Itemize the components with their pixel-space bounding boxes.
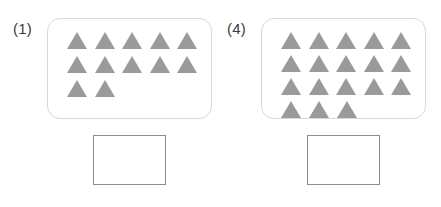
triangle-icon xyxy=(95,32,115,49)
shape-panel-1 xyxy=(47,18,212,119)
triangle-icon xyxy=(309,78,329,95)
triangle-icon xyxy=(67,56,87,73)
triangle-cell xyxy=(309,77,337,101)
triangle-icon xyxy=(122,56,142,73)
triangle-icon xyxy=(337,101,357,118)
triangle-icon xyxy=(122,32,142,49)
triangle-icon xyxy=(364,78,384,95)
item-number-label: (1) xyxy=(13,20,32,38)
triangle-icon xyxy=(336,78,356,95)
triangle-cell xyxy=(177,55,205,79)
answer-box[interactable] xyxy=(307,135,380,185)
triangle-cell xyxy=(309,31,337,55)
triangle-icon xyxy=(95,80,115,97)
triangle-row xyxy=(281,100,419,123)
triangle-icon xyxy=(95,56,115,73)
triangle-cell xyxy=(122,55,150,79)
triangle-cell xyxy=(336,54,364,78)
triangle-row xyxy=(67,55,205,79)
triangle-icon xyxy=(309,101,329,118)
item-number-label: (4) xyxy=(227,20,246,38)
triangle-icon xyxy=(336,32,356,49)
triangle-cell xyxy=(150,55,178,79)
triangle-icon xyxy=(177,56,197,73)
triangle-icon xyxy=(281,32,301,49)
triangle-cell xyxy=(95,55,123,79)
triangle-cell xyxy=(364,31,392,55)
shape-panel-4 xyxy=(261,18,426,119)
triangle-icon xyxy=(177,32,197,49)
triangle-row xyxy=(67,79,205,103)
triangle-cell xyxy=(309,100,337,124)
triangle-grid-1 xyxy=(67,31,205,112)
triangle-cell xyxy=(337,100,365,124)
triangle-cell xyxy=(67,55,95,79)
triangle-icon xyxy=(67,80,87,97)
triangle-cell xyxy=(150,31,178,55)
triangle-cell xyxy=(336,77,364,101)
triangle-icon xyxy=(67,32,87,49)
triangle-cell xyxy=(95,79,123,103)
triangle-cell xyxy=(281,100,309,124)
answer-box[interactable] xyxy=(93,135,166,185)
triangle-cell xyxy=(364,77,392,101)
triangle-row xyxy=(281,31,419,54)
triangle-icon xyxy=(281,55,301,72)
triangle-icon xyxy=(391,32,411,49)
exercise-item-4: (4) xyxy=(214,0,434,207)
triangle-icon xyxy=(391,55,411,72)
triangle-cell xyxy=(391,77,419,101)
triangle-cell xyxy=(281,77,309,101)
triangle-row xyxy=(281,54,419,77)
triangle-row xyxy=(67,31,205,55)
triangle-icon xyxy=(150,56,170,73)
triangle-icon xyxy=(336,55,356,72)
triangle-cell xyxy=(281,31,309,55)
triangle-icon xyxy=(150,32,170,49)
triangle-icon xyxy=(364,55,384,72)
triangle-cell xyxy=(67,79,95,103)
triangle-row xyxy=(281,77,419,100)
triangle-icon xyxy=(309,55,329,72)
triangle-cell xyxy=(364,54,392,78)
triangle-cell xyxy=(122,31,150,55)
triangle-cell xyxy=(309,54,337,78)
triangle-icon xyxy=(364,32,384,49)
triangle-cell xyxy=(67,31,95,55)
triangle-cell xyxy=(177,31,205,55)
triangle-icon xyxy=(281,101,301,118)
triangle-icon xyxy=(309,32,329,49)
triangle-icon xyxy=(391,78,411,95)
triangle-icon xyxy=(281,78,301,95)
triangle-grid-4 xyxy=(281,31,419,112)
triangle-cell xyxy=(95,31,123,55)
triangle-cell xyxy=(336,31,364,55)
triangle-cell xyxy=(391,54,419,78)
triangle-cell xyxy=(391,31,419,55)
worksheet: (1) xyxy=(0,0,441,207)
exercise-item-1: (1) xyxy=(0,0,220,207)
triangle-cell xyxy=(281,54,309,78)
